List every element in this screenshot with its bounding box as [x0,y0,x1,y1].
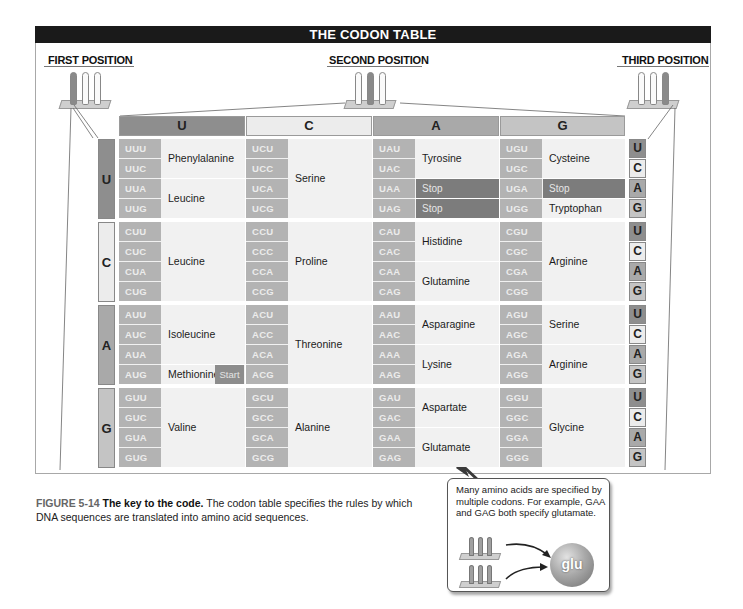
second-position-label: SECOND POSITION [329,54,429,66]
amino-acid-label: Arginine [549,358,588,370]
codon-gua: GUA [119,428,161,447]
amino-acid-label: Threonine [295,338,342,350]
start-codon-badge: Start [215,365,244,384]
third-position-a: A [629,262,646,281]
group-divider [415,427,499,428]
group-divider [415,344,499,345]
third-position-u: U [629,388,646,407]
codon-acc: ACC [246,325,288,344]
codon-aug: AUG [119,365,161,384]
third-position-c: C [629,408,646,427]
third-position-c: C [629,325,646,344]
figure-title: The key to the code. [103,497,204,509]
stop-codon-label: Stop [416,179,499,198]
codon-uac: UAC [373,159,415,178]
codon-aaa: AAA [373,345,415,364]
group-divider [415,261,499,262]
codon-auc: AUC [119,325,161,344]
codon-agu: AGU [500,305,542,324]
third-position-tubes-icon [628,72,678,120]
codon-cac: CAC [373,242,415,261]
codon-ggu: GGU [500,388,542,407]
amino-acid-label: Leucine [168,192,205,204]
codon-gac: GAC [373,408,415,427]
amino-acid-label: Valine [168,421,196,433]
codon-ccg: CCG [246,282,288,301]
codon-uca: UCA [246,179,288,198]
third-position-label: THIRD POSITION [622,54,708,66]
third-position-a: A [629,179,646,198]
second-position-header-a: A [373,116,499,136]
third-position-rule [617,66,709,67]
codon-uga: UGA [500,179,542,198]
first-position-tubes-icon [60,72,110,120]
amino-acid-label: Tyrosine [422,152,462,164]
second-position-header-c: C [246,116,372,136]
second-position-header-u: U [119,116,245,136]
first-position-c: C [98,222,115,302]
codon-ggg: GGG [500,448,542,467]
third-position-g: G [629,448,646,467]
first-position-u: U [98,139,115,219]
third-position-a: A [629,428,646,447]
codon-uua: UUA [119,179,161,198]
codon-gca: GCA [246,428,288,447]
codon-cuc: CUC [119,242,161,261]
codon-uug: UUG [119,199,161,218]
codon-cug: CUG [119,282,161,301]
glutamate-molecule-icon: glu [550,543,594,587]
second-position-rule [327,66,422,67]
amino-acid-label: Asparagine [422,318,475,330]
codon-ugc: UGC [500,159,542,178]
codon-acg: ACG [246,365,288,384]
codon-ccc: CCC [246,242,288,261]
first-position-g: G [98,388,115,468]
amino-acid-label: Serine [295,172,325,184]
codon-uau: UAU [373,139,415,158]
third-position-u: U [629,222,646,241]
codon-gau: GAU [373,388,415,407]
codon-cgc: CGC [500,242,542,261]
second-position-tubes-icon [345,72,395,120]
first-position-rule [44,66,134,67]
codon-cuu: CUU [119,222,161,241]
amino-acid-label: Glutamate [422,441,470,453]
codon-caa: CAA [373,262,415,281]
amino-acid-label: Lysine [422,358,452,370]
stop-codon-label: Stop [416,199,499,218]
codon-gcg: GCG [246,448,288,467]
first-position-a: A [98,305,115,385]
codon-cgu: CGU [500,222,542,241]
amino-acid-label: Cysteine [549,152,590,164]
codon-uuc: UUC [119,159,161,178]
codon-ggc: GGC [500,408,542,427]
codon-uaa: UAA [373,179,415,198]
amino-acid-label: Isoleucine [168,328,215,340]
codon-gaa: GAA [373,428,415,447]
codon-ucc: UCC [246,159,288,178]
codon-cga: CGA [500,262,542,281]
codon-aga: AGA [500,345,542,364]
codon-cag: CAG [373,282,415,301]
codon-gag: GAG [373,448,415,467]
codon-gug: GUG [119,448,161,467]
third-position-a: A [629,345,646,364]
amino-acid-label: Proline [295,255,328,267]
page-title: THE CODON TABLE [35,26,711,43]
third-position-g: G [629,282,646,301]
codon-cca: CCA [246,262,288,281]
codon-aca: ACA [246,345,288,364]
codon-gga: GGA [500,428,542,447]
amino-acid-label: Histidine [422,235,462,247]
codon-gcc: GCC [246,408,288,427]
stop-codon-label: Stop [543,179,625,198]
codon-ucu: UCU [246,139,288,158]
codon-acu: ACU [246,305,288,324]
codon-auu: AUU [119,305,161,324]
group-divider [542,198,625,199]
codon-aac: AAC [373,325,415,344]
codon-uuu: UUU [119,139,161,158]
glutamate-callout: Many amino acids are specified by multip… [447,478,610,592]
codon-gcu: GCU [246,388,288,407]
third-position-g: G [629,365,646,384]
